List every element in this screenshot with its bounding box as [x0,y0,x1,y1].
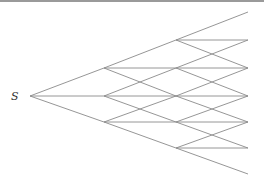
tree-edge [30,68,104,96]
tree-canvas: S [0,0,264,182]
tree-edge [104,40,176,68]
tree-edge [176,148,248,174]
tree-edge [176,12,248,40]
root-label: S [11,90,19,103]
tree-edge [30,96,104,122]
trinomial-tree-diagram: S [0,0,264,182]
tree-edge [104,122,176,148]
